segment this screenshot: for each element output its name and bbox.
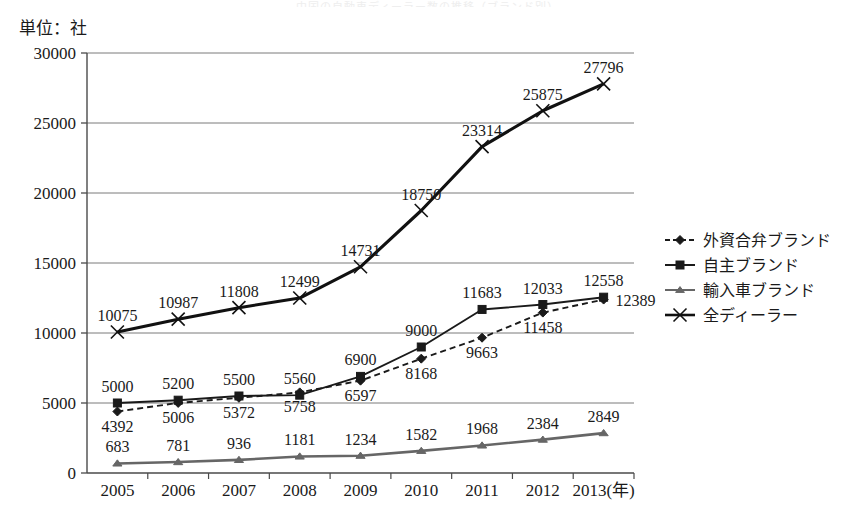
- x-tick-label-2012: 2012: [526, 481, 560, 500]
- data-label-外資合弁ブランド-2006: 5006: [162, 409, 194, 426]
- diamond-marker: [113, 407, 122, 416]
- chart-container: 中国の自動車ディーラー数の推移（ブランド別） 05000100001500020…: [0, 0, 854, 517]
- data-label-外資合弁ブランド-2005: 4392: [101, 418, 133, 435]
- data-label-輸入車ブランド-2005: 683: [105, 438, 129, 455]
- line-chart: 050001000015000200002500030000単位：社200520…: [0, 0, 854, 517]
- diamond-marker: [478, 333, 487, 342]
- diamond-marker: [417, 354, 426, 363]
- square-marker: [676, 261, 684, 269]
- data-label-自主ブランド-2007: 5500: [223, 371, 255, 388]
- data-label-輸入車ブランド-2006: 781: [166, 437, 190, 454]
- data-label-輸入車ブランド-2012: 2384: [527, 415, 559, 432]
- square-marker: [235, 392, 243, 400]
- x-tick-label-2008: 2008: [283, 481, 317, 500]
- y-tick-label-10000: 10000: [34, 324, 77, 343]
- x-tick-label-2011: 2011: [465, 481, 498, 500]
- data-label-自主ブランド-2009: 6900: [345, 351, 377, 368]
- square-marker: [600, 293, 608, 301]
- data-label-外資合弁ブランド-2012: 11458: [523, 319, 562, 336]
- y-tick-label-25000: 25000: [34, 114, 77, 133]
- diamond-marker: [538, 308, 547, 317]
- square-marker: [113, 399, 121, 407]
- data-label-外資合弁ブランド-2009: 6597: [345, 387, 377, 404]
- data-label-自主ブランド-2005: 5000: [101, 378, 133, 395]
- diamond-marker: [676, 236, 685, 245]
- data-label-輸入車ブランド-2013: 2849: [588, 408, 620, 425]
- y-tick-label-30000: 30000: [34, 44, 77, 63]
- data-label-外資合弁ブランド-2010: 8168: [405, 365, 437, 382]
- data-label-輸入車ブランド-2011: 1968: [466, 420, 498, 437]
- x-tick-label-2010: 2010: [404, 481, 438, 500]
- x-tick-label-2007: 2007: [222, 481, 257, 500]
- y-tick-label-15000: 15000: [34, 254, 77, 273]
- legend-label-全ディーラー: 全ディーラー: [703, 306, 798, 324]
- square-marker: [357, 372, 365, 380]
- data-label-自主ブランド-2010: 9000: [405, 322, 437, 339]
- data-label-輸入車ブランド-2007: 936: [227, 435, 251, 452]
- data-label-外資合弁ブランド-2011: 9663: [466, 344, 498, 361]
- square-marker: [296, 391, 304, 399]
- data-label-全ディーラー-2006: 10987: [158, 294, 198, 311]
- data-label-全ディーラー-2013: 27796: [584, 59, 624, 76]
- data-label-自主ブランド-2013: 12558: [584, 272, 624, 289]
- data-label-全ディーラー-2011: 23314: [462, 122, 502, 139]
- legend-item-輸入車ブランド[interactable]: 輸入車ブランド: [665, 281, 815, 299]
- data-label-外資合弁ブランド-2013: 12389: [616, 292, 656, 309]
- data-label-全ディーラー-2010: 18750: [401, 186, 441, 203]
- data-label-全ディーラー-2012: 25875: [523, 86, 563, 103]
- data-label-輸入車ブランド-2008: 1181: [284, 431, 315, 448]
- legend-item-外資合弁ブランド[interactable]: 外資合弁ブランド: [665, 231, 831, 249]
- x-tick-label-2006: 2006: [161, 481, 195, 500]
- legend-item-自主ブランド[interactable]: 自主ブランド: [665, 256, 799, 274]
- y-tick-label-20000: 20000: [34, 184, 77, 203]
- data-label-自主ブランド-2011: 11683: [462, 284, 501, 301]
- y-tick-label-0: 0: [68, 464, 77, 483]
- data-label-輸入車ブランド-2010: 1582: [405, 426, 437, 443]
- legend-item-全ディーラー[interactable]: 全ディーラー: [665, 306, 798, 324]
- data-label-自主ブランド-2008: 5560: [284, 370, 316, 387]
- x-tick-label-2009: 2009: [344, 481, 378, 500]
- data-label-全ディーラー-2009: 14731: [341, 242, 381, 259]
- data-label-全ディーラー-2005: 10075: [97, 307, 137, 324]
- legend-label-自主ブランド: 自主ブランド: [703, 256, 799, 274]
- square-marker: [478, 305, 486, 313]
- data-label-外資合弁ブランド-2007: 5372: [223, 404, 255, 421]
- legend-label-外資合弁ブランド: 外資合弁ブランド: [703, 231, 831, 249]
- data-label-全ディーラー-2007: 11808: [219, 283, 258, 300]
- y-axis-unit-label: 単位：社: [19, 19, 87, 38]
- data-label-自主ブランド-2006: 5200: [162, 375, 194, 392]
- data-label-輸入車ブランド-2009: 1234: [345, 431, 377, 448]
- legend-label-輸入車ブランド: 輸入車ブランド: [703, 281, 815, 299]
- data-label-全ディーラー-2008: 12499: [280, 273, 320, 290]
- square-marker: [539, 301, 547, 309]
- square-marker: [417, 343, 425, 351]
- square-marker: [174, 396, 182, 404]
- x-tick-label-2005: 2005: [100, 481, 134, 500]
- chart-title-faint: 中国の自動車ディーラー数の推移（ブランド別）: [0, 0, 854, 7]
- data-label-外資合弁ブランド-2008: 5758: [284, 398, 316, 415]
- data-label-自主ブランド-2012: 12033: [523, 280, 563, 297]
- y-tick-label-5000: 5000: [42, 394, 76, 413]
- x-tick-label-2013: 2013(年): [572, 481, 634, 500]
